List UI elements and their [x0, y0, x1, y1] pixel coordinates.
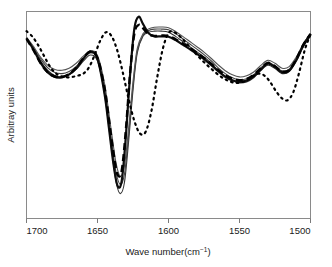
y-axis-title: Arbitray units [5, 87, 16, 143]
x-axis-title: Wave number(cm−1) [125, 246, 210, 258]
x-tick-label: 1700 [27, 225, 48, 236]
x-tick-label: 1650 [87, 225, 108, 236]
spectrum-chart: 17001650160015501500 Wave number(cm−1) A… [0, 0, 332, 267]
figure-container: 17001650160015501500 Wave number(cm−1) A… [0, 0, 332, 267]
x-tick-label: 1550 [229, 225, 250, 236]
x-tick-label: 1500 [289, 225, 310, 236]
x-tick-label: 1600 [158, 225, 179, 236]
